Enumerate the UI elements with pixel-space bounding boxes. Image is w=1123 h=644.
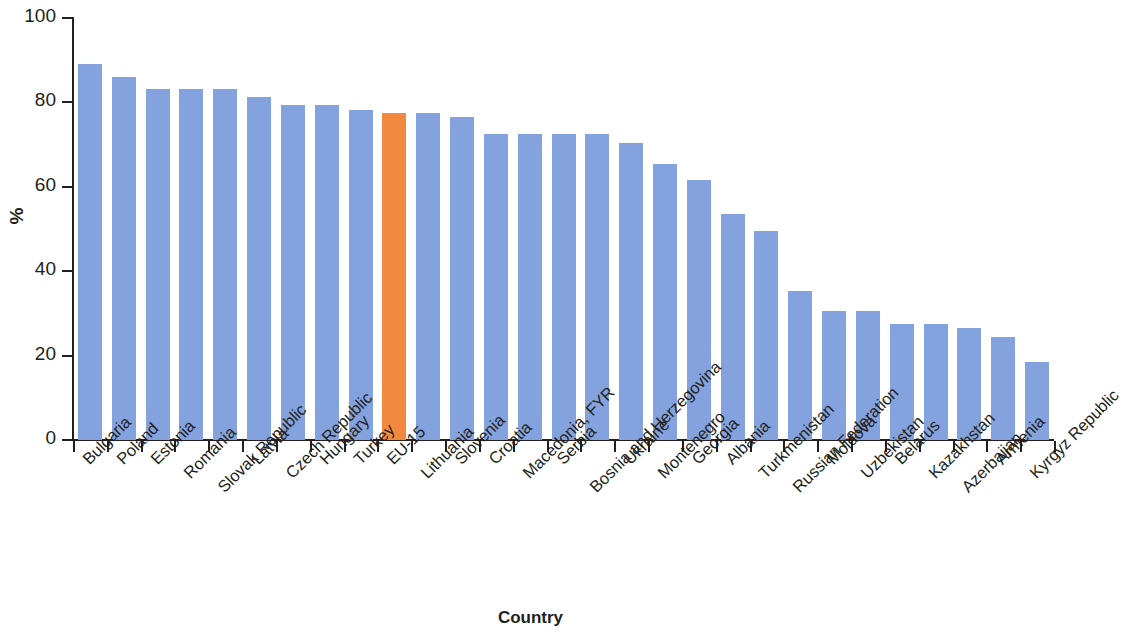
x-axis-category-label: Kyrgyz Republic (1026, 386, 1123, 483)
x-axis-title: Country (0, 608, 1061, 628)
